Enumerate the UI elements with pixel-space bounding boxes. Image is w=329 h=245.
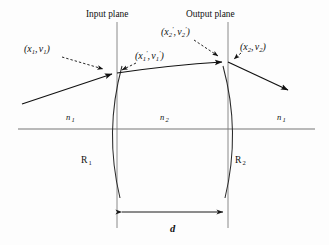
optics-diagram: Input plane Output plane (x1,v1) (x1',v1… xyxy=(0,0,329,245)
optics-diagram-canvas: Input plane Output plane (x1,v1) (x1',v1… xyxy=(0,0,329,245)
radius-left-sub: 1 xyxy=(89,159,92,166)
pointer-ray-in-primed-icon xyxy=(122,63,136,70)
internal-ray xyxy=(117,62,222,73)
pointer-ray-out-icon xyxy=(234,53,241,59)
radius-right-sub: 2 xyxy=(243,159,246,166)
radius-left-r: R xyxy=(81,154,88,165)
exit-ray xyxy=(228,62,288,90)
index-right-n: n xyxy=(277,112,281,122)
index-left-sub: 1 xyxy=(71,116,74,123)
paren-close: ) xyxy=(46,43,51,55)
ray-in-label: (x1,v1) xyxy=(24,43,51,55)
paren-close: ) xyxy=(186,26,191,38)
pointer-ray-in-icon xyxy=(62,57,103,69)
paren-close: ) xyxy=(160,50,165,62)
index-left-label: n1 xyxy=(66,112,75,123)
index-middle-sub: 2 xyxy=(165,116,169,123)
ray-in-primed-label: (x1',v1') xyxy=(135,49,165,62)
incident-ray xyxy=(22,74,112,104)
radius-left-label: R1 xyxy=(81,154,92,166)
output-plane-label: Output plane xyxy=(186,9,235,19)
input-plane-label: Input plane xyxy=(86,9,128,19)
comma-4: , xyxy=(251,41,254,52)
index-right-label: n1 xyxy=(277,112,286,123)
radius-right-r: R xyxy=(235,154,242,165)
radius-right-label: R2 xyxy=(235,154,246,166)
comma-2: , xyxy=(148,50,151,61)
index-left-n: n xyxy=(66,112,70,122)
pointer-ray-out-primed-icon xyxy=(194,40,218,56)
paren-close: ) xyxy=(262,41,267,53)
index-middle-label: n2 xyxy=(160,112,169,123)
ray-out-primed-label: (x2',v2') xyxy=(161,25,191,38)
comma-1: , xyxy=(35,43,38,54)
comma-3: , xyxy=(174,26,177,37)
ray-out-label: (x2,v2) xyxy=(240,41,267,53)
thickness-label: d xyxy=(170,223,176,234)
index-right-sub: 1 xyxy=(282,116,285,123)
index-middle-n: n xyxy=(160,112,164,122)
